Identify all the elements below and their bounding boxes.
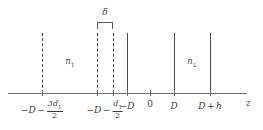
z-axis-label: z <box>246 98 250 108</box>
tick2-operator: − <box>101 106 112 115</box>
tick-label-zero: 0 <box>147 100 153 109</box>
region-n2-subscript: 2 <box>193 61 197 68</box>
tick2-lead-sign: − <box>87 106 95 115</box>
interface-line-5 <box>174 33 175 93</box>
tick-mark-6 <box>174 90 175 96</box>
tick2-base: D <box>94 106 101 115</box>
region-n1-subscript: 1 <box>71 61 75 68</box>
tick6-base: D <box>198 102 205 111</box>
delta-symbol-label: δ <box>102 7 107 17</box>
tick1-numerator-subscript: 1 <box>58 104 62 110</box>
tick-mark-7 <box>210 90 211 96</box>
tick3-base: D <box>127 102 134 111</box>
region-label-n1: n1 <box>65 56 74 68</box>
delta-measurement-bracket <box>97 22 113 29</box>
tick6-tail: h <box>216 102 222 111</box>
tick-mark-3 <box>113 90 114 96</box>
region-label-n2: n2 <box>187 56 196 68</box>
tick-mark-1 <box>42 90 43 96</box>
tick1-base: D <box>29 106 36 115</box>
tick1-fraction: 3d12 <box>47 100 63 120</box>
interface-line-6 <box>210 33 211 93</box>
tick-mark-5 <box>150 90 151 96</box>
tick1-operator: − <box>36 106 47 115</box>
tick2-denominator: 2 <box>115 112 120 121</box>
tick1-denominator: 2 <box>52 112 57 121</box>
tick6-operator: + <box>205 102 216 111</box>
tick-label-minus-D: −D <box>120 102 135 111</box>
layered-medium-schematic: δ n1 n2 z −D−3d12 −D−d12 −D 0 D D+h <box>0 0 263 130</box>
tick1-lead-sign: − <box>21 106 29 115</box>
tick1-numerator-text: 3d <box>48 99 58 108</box>
tick-label-D: D <box>170 102 177 111</box>
tick-mark-4 <box>127 90 128 96</box>
tick1-numerator: 3d1 <box>47 100 63 112</box>
interface-line-2 <box>97 33 98 93</box>
tick-label-D-plus-h: D+h <box>198 102 222 111</box>
tick-mark-2 <box>97 90 98 96</box>
tick5-base: D <box>170 102 177 111</box>
tick-label-minus-D-minus-3d1-over-2: −D−3d12 <box>21 100 63 120</box>
interface-line-3 <box>113 33 114 93</box>
tick-label-minus-D-minus-d1-over-2: −D−d12 <box>87 100 124 120</box>
tick4-base: 0 <box>147 100 153 109</box>
tick3-lead-sign: − <box>120 102 128 111</box>
interface-line-1 <box>42 33 43 93</box>
interface-line-4 <box>127 33 128 93</box>
